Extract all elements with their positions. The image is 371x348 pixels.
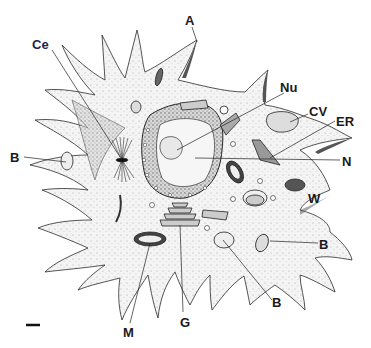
label-b-bottom: B — [272, 296, 281, 309]
label-cv: CV — [309, 105, 327, 118]
label-ce: Ce — [32, 38, 49, 51]
label-a: A — [185, 14, 194, 27]
label-er: ER — [336, 115, 354, 128]
label-w: W — [308, 192, 320, 205]
label-g: G — [180, 316, 190, 329]
label-nu: Nu — [280, 81, 297, 94]
label-n: N — [342, 155, 351, 168]
label-b-left: B — [10, 151, 19, 164]
label-b-right: B — [319, 238, 328, 251]
label-m: M — [123, 326, 134, 339]
cell-diagram: A Ce Nu CV ER N B W B B M G — [0, 0, 371, 348]
cell-illustration — [0, 0, 371, 348]
